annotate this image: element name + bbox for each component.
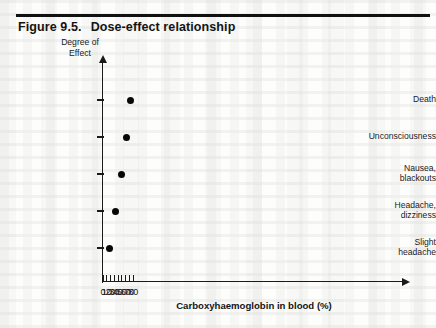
x-axis-tick — [110, 275, 111, 282]
y-axis-title-line-2: Effect — [55, 48, 105, 59]
y-axis-arrow-icon — [99, 55, 107, 63]
x-axis-tick — [121, 275, 122, 282]
y-axis-tick — [97, 210, 104, 211]
x-axis-line — [102, 281, 404, 282]
y-axis-label-line: Nausea, — [342, 163, 436, 173]
y-axis-label-line: Death — [342, 94, 436, 104]
x-axis-tick — [133, 275, 134, 282]
y-axis-label-line: Headache, — [342, 200, 436, 210]
x-axis-tick — [118, 275, 119, 282]
y-axis-title-line-1: Degree of — [55, 37, 105, 48]
data-point — [118, 171, 125, 178]
data-point — [106, 245, 113, 252]
data-point — [127, 97, 134, 104]
x-axis-tick — [102, 275, 103, 282]
y-axis-label-line: blackouts — [342, 173, 436, 183]
y-axis-tick — [97, 247, 104, 248]
y-axis-tick — [97, 99, 104, 100]
y-axis-label: Death — [342, 94, 436, 104]
y-axis-tick — [97, 173, 104, 174]
y-axis-label: Slightheadache — [342, 237, 436, 257]
y-axis-label-line: Slight — [342, 237, 436, 247]
scatter-chart: Degree of Effect SlightheadacheHeadache,… — [0, 0, 436, 328]
y-axis-tick — [97, 136, 104, 137]
x-axis-label: 80 — [118, 287, 148, 297]
y-axis-label-line: headache — [342, 247, 436, 257]
figure-page: Figure 9.5.Dose-effect relationship Degr… — [0, 0, 436, 328]
y-axis-label: Headache,dizziness — [342, 200, 436, 220]
x-axis-tick — [114, 275, 115, 282]
data-point — [123, 134, 130, 141]
y-axis-label-line: Unconsciousness — [342, 131, 436, 141]
y-axis-label-line: dizziness — [342, 210, 436, 220]
x-axis-title: Carboxyhaemoglobin in blood (%) — [103, 300, 405, 311]
y-axis-title: Degree of Effect — [55, 37, 105, 58]
x-axis-tick — [106, 275, 107, 282]
x-axis-tick — [129, 275, 130, 282]
y-axis-label: Unconsciousness — [342, 131, 436, 141]
x-axis-arrow-icon — [402, 278, 410, 286]
data-point — [112, 208, 119, 215]
y-axis-label: Nausea,blackouts — [342, 163, 436, 183]
x-axis-tick — [125, 275, 126, 282]
